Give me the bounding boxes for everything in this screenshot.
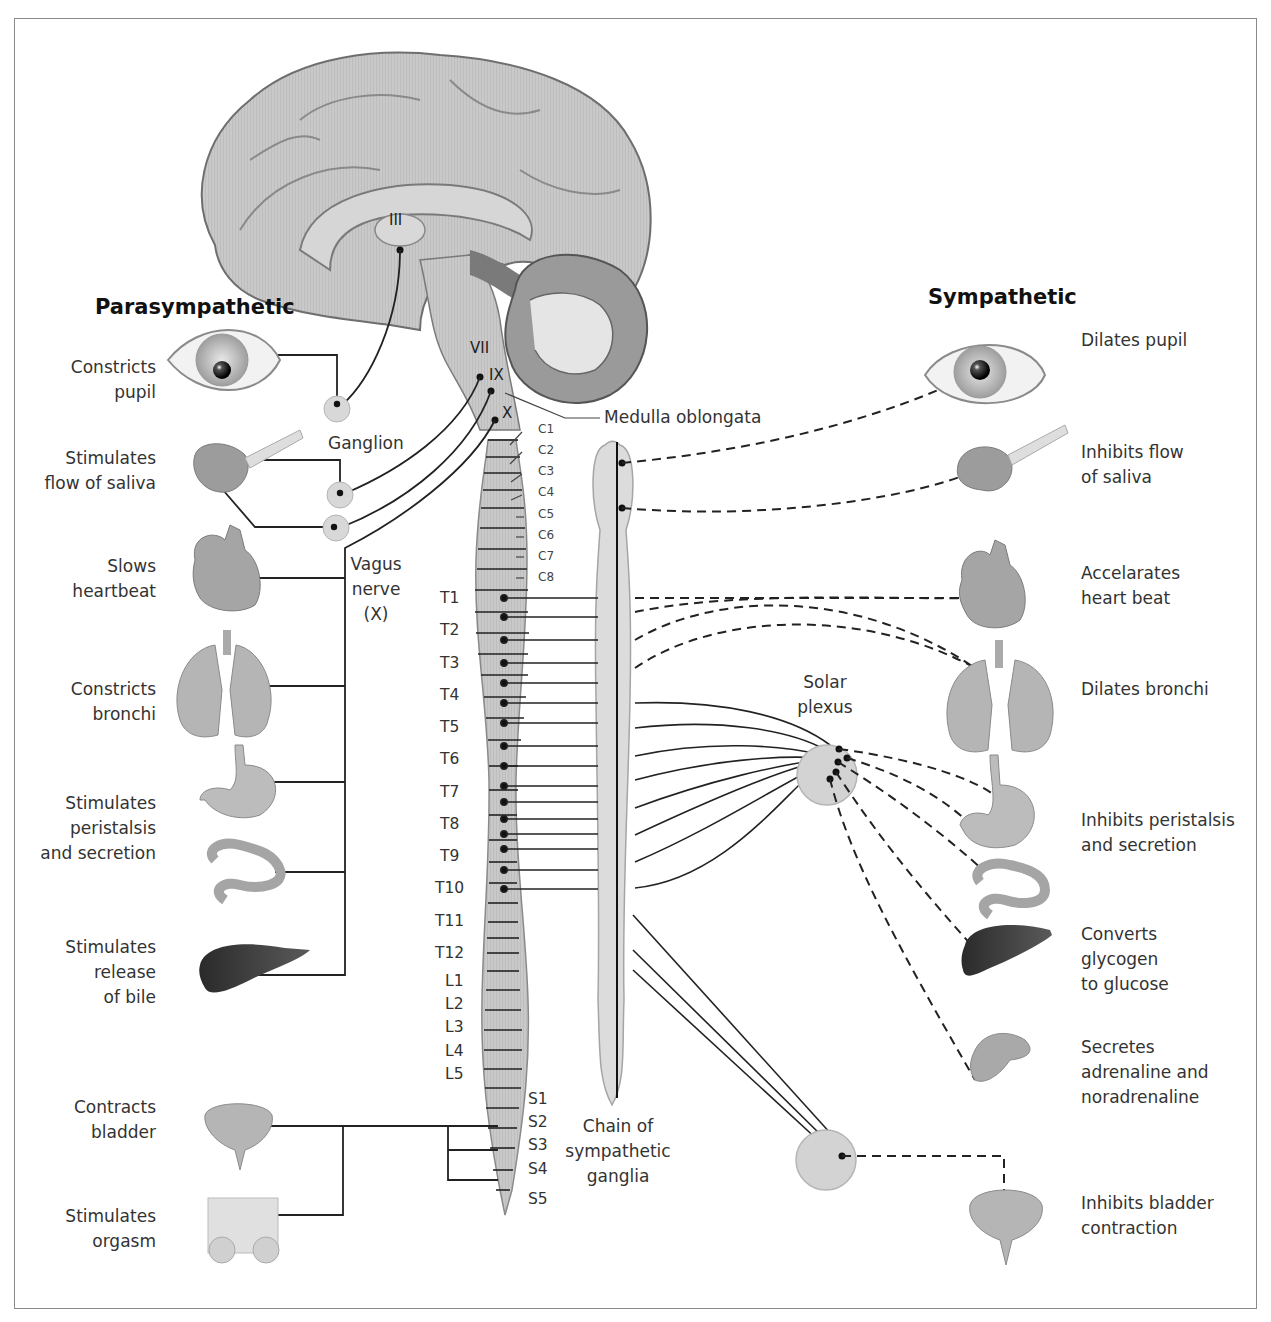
segment-L4: L4 [445,1042,464,1060]
segment-C2: C2 [538,443,554,457]
organ-stomach-intestine-right [960,755,1045,915]
organ-liver-right [962,925,1052,976]
segment-C3: C3 [538,464,554,478]
segment-L2: L2 [445,995,464,1013]
segment-S3: S3 [528,1136,548,1154]
organ-liver-left [199,944,310,992]
parasympathetic-heading: Parasympathetic [95,295,295,319]
effect-slows-heartbeat: Slows heartbeat [72,554,156,604]
segment-C4: C4 [538,485,554,499]
effect-stimulates-saliva: Stimulates flow of saliva [45,446,156,496]
segment-T2: T2 [440,621,459,639]
medulla-oblongata-label: Medulla oblongata [604,405,761,430]
cranial-nerve-VII: VII [470,339,489,357]
sympathetic-heading: Sympathetic [928,285,1077,309]
effect-inhibits-peristalsis: Inhibits peristalsis and secretion [1081,808,1235,858]
cranial-nerve-IX: IX [489,366,504,384]
chain-ganglia-label: Chain of sympathetic ganglia [558,1114,678,1189]
segment-C8: C8 [538,570,554,584]
effect-contracts-bladder: Contracts bladder [74,1095,156,1145]
segment-C7: C7 [538,549,554,563]
segment-T8: T8 [440,815,459,833]
segment-T1: T1 [440,589,459,607]
effect-dilates-pupil: Dilates pupil [1081,328,1187,353]
parasympathetic-ganglia [323,396,353,541]
segment-S2: S2 [528,1113,548,1131]
segment-C5: C5 [538,507,554,521]
ganglion-label: Ganglion [328,431,404,456]
cranial-nerve-III: III [389,211,402,229]
segment-S5: S5 [528,1190,548,1208]
segment-T10: T10 [435,879,464,897]
sympathetic-chain [593,441,633,1105]
segment-S4: S4 [528,1160,548,1178]
organ-genitals-left [208,1198,279,1263]
segment-T12: T12 [435,944,464,962]
organ-lungs-right [947,640,1053,752]
segment-L1: L1 [445,972,464,990]
effect-stimulates-bile: Stimulates release of bile [65,935,156,1010]
segment-S1: S1 [528,1090,548,1108]
segment-T11: T11 [435,912,464,930]
effect-constricts-bronchi: Constricts bronchi [71,677,156,727]
solar-plexus-label: Solar plexus [795,670,855,720]
vagus-nerve-label: Vagus nerve (X) [346,552,406,627]
organ-stomach-intestine-left [200,745,281,900]
effect-secretes-adrenaline: Secretes adrenaline and noradrenaline [1081,1035,1209,1110]
spinal-cord [475,432,529,1215]
organ-eye-left [168,330,280,390]
organ-adrenal-right [970,1033,1030,1081]
organ-salivary-gland-left [194,430,303,492]
segment-T5: T5 [440,718,459,736]
organ-heart-left [193,525,260,611]
inferior-mesenteric-ganglion [796,1130,856,1190]
effect-constricts-pupil: Constricts pupil [71,355,156,405]
cranial-nerve-X: X [502,404,512,422]
organ-bladder-right [970,1190,1043,1265]
organ-salivary-gland-right [957,425,1068,491]
segment-T6: T6 [440,750,459,768]
solar-plexus-ganglion [797,745,857,805]
effect-stimulates-orgasm: Stimulates orgasm [65,1204,156,1254]
segment-L5: L5 [445,1065,464,1083]
organ-bladder-left [205,1104,273,1170]
segment-T7: T7 [440,783,459,801]
effect-stimulates-peristalsis: Stimulates peristalsis and secretion [40,791,156,866]
organ-heart-right [959,540,1025,628]
effect-inhibits-saliva: Inhibits flow of saliva [1081,440,1184,490]
segment-L3: L3 [445,1018,464,1036]
segment-C6: C6 [538,528,554,542]
effect-dilates-bronchi: Dilates bronchi [1081,677,1209,702]
organ-eye-right [925,345,1045,403]
effect-converts-glycogen: Converts glycogen to glucose [1081,922,1169,997]
effect-inhibits-bladder: Inhibits bladder contraction [1081,1191,1214,1241]
segment-T3: T3 [440,654,459,672]
effect-accelerates-heartbeat: Accelarates heart beat [1081,561,1180,611]
organ-lungs-left [177,630,271,737]
segment-C1: C1 [538,422,554,436]
segment-T4: T4 [440,686,459,704]
segment-T9: T9 [440,847,459,865]
